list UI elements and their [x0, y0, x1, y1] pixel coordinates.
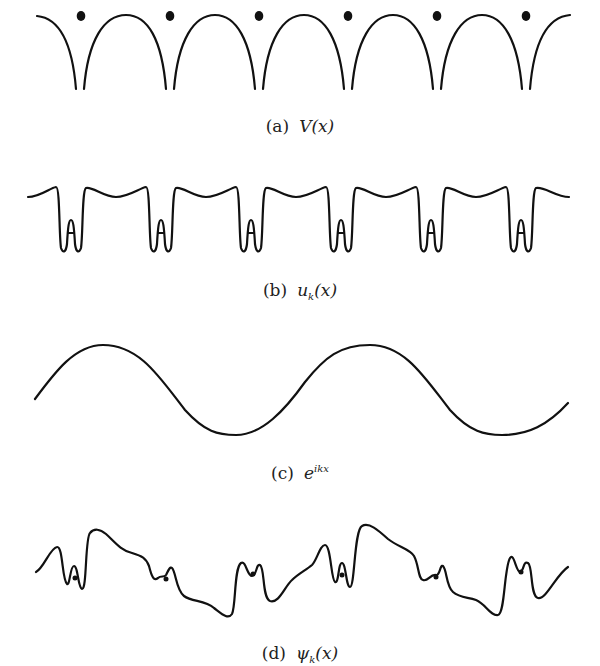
- plane-wave-curve: [35, 345, 568, 435]
- ion-dot: [519, 570, 524, 575]
- ion-dot: [166, 11, 175, 21]
- panel-a-potential: [37, 11, 570, 89]
- bloch-wave-curve: [36, 525, 568, 617]
- caption-b-math-main: u: [297, 280, 308, 300]
- caption-c: (c)eikx: [0, 463, 600, 483]
- caption-a-math: V(x): [299, 116, 334, 136]
- panel-d-bloch-wave: [36, 525, 568, 617]
- ion-dot: [522, 11, 531, 21]
- uk-curve: [28, 187, 569, 251]
- caption-d-label: (d): [262, 643, 286, 663]
- bloch-theorem-figure: [0, 0, 600, 666]
- ion-dot: [340, 573, 345, 578]
- caption-b-label: (b): [263, 280, 287, 300]
- ion-dot: [251, 572, 256, 577]
- potential-curve-left-edge: [37, 16, 76, 89]
- caption-a: (a)V(x): [0, 116, 600, 136]
- ion-dot: [164, 577, 169, 582]
- caption-b-math-tail: (x): [314, 280, 337, 300]
- ion-dot: [255, 11, 264, 21]
- potential-curve: [84, 15, 570, 89]
- ion-dot: [77, 11, 86, 21]
- caption-d-math-tail: (x): [315, 643, 338, 663]
- panel-b-periodic-function: [28, 187, 569, 251]
- caption-d: (d)ψk(x): [0, 643, 600, 665]
- caption-c-label: (c): [271, 463, 294, 483]
- ion-dot: [344, 11, 353, 21]
- caption-a-label: (a): [266, 116, 289, 136]
- caption-c-math-sup: ikx: [314, 463, 329, 474]
- ion-dot: [73, 576, 78, 581]
- caption-d-math-main: ψ: [296, 643, 309, 663]
- panel-c-plane-wave: [35, 345, 568, 435]
- caption-c-math-main: e: [304, 463, 314, 483]
- ion-dot: [434, 575, 439, 580]
- ion-dot: [433, 11, 442, 21]
- caption-b: (b)uk(x): [0, 280, 600, 302]
